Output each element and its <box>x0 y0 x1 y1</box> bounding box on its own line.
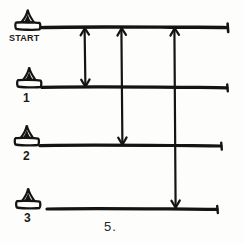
figure-caption: 5. <box>104 219 117 234</box>
lane-label-3: 3 <box>24 211 31 225</box>
lane-label-1: 1 <box>23 91 30 105</box>
lane-label-2: 2 <box>23 149 30 163</box>
cone-icon <box>17 68 41 87</box>
cone-icon <box>15 10 40 29</box>
diagram-canvas: START 1 2 3 5. <box>0 0 244 245</box>
lane-label-start: START <box>9 33 39 44</box>
lane-3 <box>16 189 218 213</box>
connector-start-to-1 <box>81 28 90 87</box>
cone-icon <box>15 126 39 145</box>
connector-start-to-3 <box>170 28 179 208</box>
cone-icon <box>16 189 40 208</box>
